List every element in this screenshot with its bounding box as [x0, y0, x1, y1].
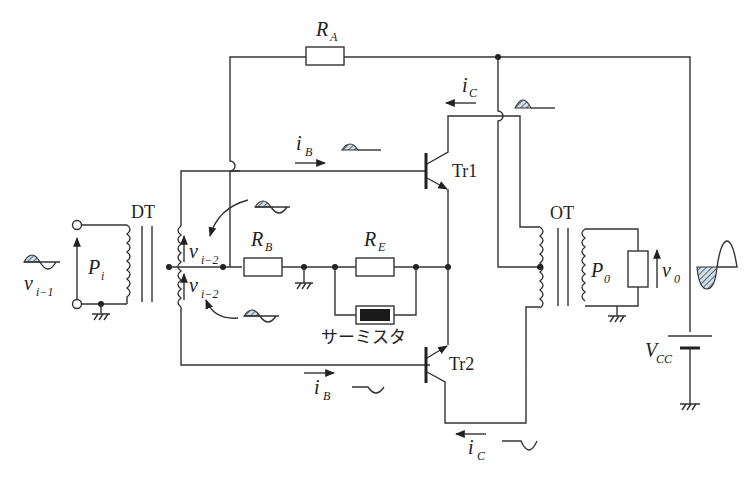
base-current-2-waveform-icon: [352, 387, 384, 393]
ra-label: R: [315, 18, 328, 40]
collector-current-1-waveform-icon: [515, 100, 555, 108]
ic1-label: i: [462, 74, 468, 96]
resistor-rb: [244, 258, 282, 276]
output-waveform-icon: [697, 241, 737, 289]
resistor-re: [356, 258, 394, 276]
transistor-tr1: Tr1: [426, 116, 520, 267]
rb-sub: B: [265, 240, 273, 254]
secondary-lower-label: v: [189, 274, 198, 296]
ib2-sub: B: [323, 389, 331, 403]
output-voltage-label: v: [662, 259, 671, 281]
ground-icon: [92, 304, 110, 320]
thermistor: [356, 306, 394, 324]
secondary-upper-label: v: [189, 240, 198, 262]
output-transformer: OT: [537, 203, 585, 308]
dt-label: DT: [131, 202, 155, 222]
secondary-lower-sub: i−2: [201, 287, 218, 301]
ib1-sub: B: [305, 145, 313, 159]
re-label: R: [363, 228, 376, 250]
collector-current-2-waveform-icon: [502, 441, 537, 450]
ra-sub: A: [329, 30, 338, 44]
upper-phase-waveform-icon: [255, 201, 290, 213]
ic2-label: i: [468, 436, 474, 458]
input-power-label: P: [87, 256, 100, 278]
output-power-label: P: [590, 259, 603, 281]
input-waveform-icon: [24, 255, 60, 269]
tr1-label: Tr1: [452, 161, 477, 181]
rb-label: R: [250, 228, 263, 250]
curved-arrow-lower-icon: [206, 300, 238, 318]
transistor-tr2: Tr2: [426, 267, 540, 423]
circuit-diagram: v i−1 P i DT v i−2 v i−2 R A i B: [0, 0, 753, 479]
tr2-label: Tr2: [449, 354, 474, 374]
ground-icon: [295, 267, 313, 289]
dc-supply-vcc: V CC: [645, 336, 712, 404]
output-power-sub: 0: [604, 272, 610, 286]
ic1-sub: C: [469, 86, 478, 100]
ground-icon: [608, 306, 626, 322]
ib1-label: i: [296, 132, 302, 154]
input-voltage-label: v: [24, 272, 33, 294]
input-power-sub: i: [101, 269, 104, 283]
curved-arrow-upper-icon: [210, 200, 248, 236]
input-voltage-sub: i−1: [36, 285, 53, 299]
ground-icon: [680, 404, 700, 410]
base-current-1-waveform-icon: [342, 144, 381, 150]
re-sub: E: [377, 240, 386, 254]
ic2-sub: C: [477, 449, 486, 463]
resistor-ra: [306, 47, 344, 65]
secondary-upper-sub: i−2: [201, 253, 218, 267]
driver-transformer: DT: [131, 202, 181, 307]
lower-phase-waveform-icon: [244, 310, 279, 322]
ib2-label: i: [314, 376, 320, 398]
ot-label: OT: [550, 203, 574, 223]
output-voltage-sub: 0: [674, 272, 680, 286]
load-resistor: [628, 251, 648, 287]
thermistor-label: サーミスタ: [321, 327, 406, 347]
vcc-sub: CC: [656, 352, 673, 366]
